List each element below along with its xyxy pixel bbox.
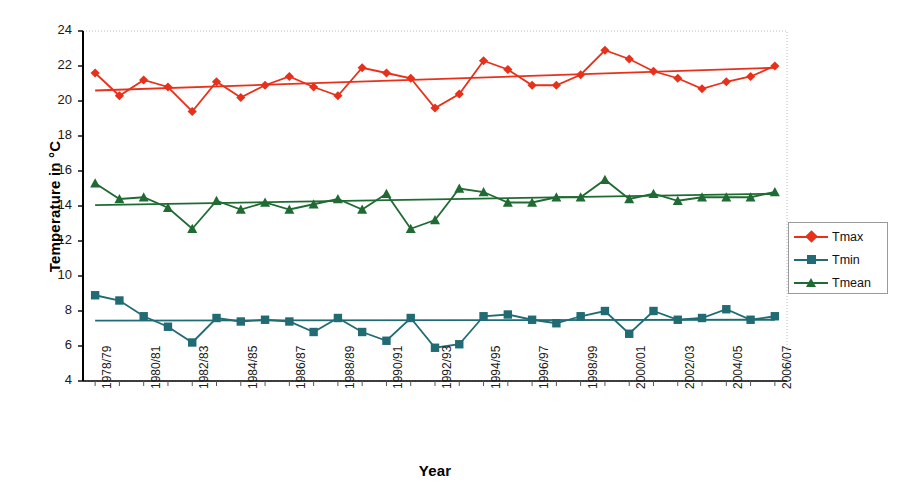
marker-tmax (139, 75, 148, 84)
x-tick-label: 2000/01 (634, 346, 648, 389)
x-tick-label: 1982/83 (197, 346, 211, 389)
marker-tmin (164, 323, 172, 331)
y-tick-label: 22 (38, 57, 72, 72)
marker-tmin (722, 305, 730, 313)
marker-tmin (528, 316, 536, 324)
y-tick-label: 24 (38, 22, 72, 37)
temperature-trend-chart: Temperature in °C Year Tmax Tmin Tmean (0, 0, 924, 493)
marker-tmax (260, 81, 269, 90)
marker-tmin (407, 314, 415, 322)
legend-item-tmin: Tmin (789, 248, 889, 272)
marker-tmin (698, 314, 706, 322)
marker-tmin (334, 314, 342, 322)
marker-tmin (139, 312, 147, 320)
marker-tmin (261, 316, 269, 324)
y-tick-label: 18 (38, 127, 72, 142)
marker-tmax (285, 72, 294, 81)
series-line-tmin (95, 295, 775, 348)
plot-area-border (83, 31, 787, 381)
marker-tmin (212, 314, 220, 322)
y-tick-label: 20 (38, 92, 72, 107)
marker-tmax (746, 72, 755, 81)
marker-tmin (382, 337, 390, 345)
marker-tmax (649, 67, 658, 76)
x-tick-label: 1978/79 (100, 346, 114, 389)
y-tick-label: 12 (38, 232, 72, 247)
trendline-tmin (95, 320, 775, 321)
marker-tmax (722, 77, 731, 86)
marker-tmin (455, 340, 463, 348)
marker-tmin (188, 338, 196, 346)
x-tick-label: 1990/91 (391, 346, 405, 389)
legend-item-tmax: Tmax (789, 225, 889, 249)
plot-canvas (0, 0, 924, 493)
x-tick-label: 1980/81 (149, 346, 163, 389)
marker-tmean (648, 189, 658, 198)
marker-tmean (333, 194, 343, 203)
legend-item-tmean: Tmean (789, 271, 889, 295)
x-tick-label: 1996/97 (537, 346, 551, 389)
x-tick-label: 1986/87 (294, 346, 308, 389)
y-tick-label: 6 (38, 337, 72, 352)
marker-tmean (770, 187, 780, 196)
chart-legend: Tmax Tmin Tmean (788, 222, 888, 294)
marker-tmin (552, 319, 560, 327)
marker-tmax (382, 68, 391, 77)
x-tick-label: 1984/85 (246, 346, 260, 389)
marker-tmin (309, 328, 317, 336)
marker-tmin (625, 330, 633, 338)
marker-tmean (357, 205, 367, 214)
marker-tmean (600, 175, 610, 184)
legend-swatch-tmean (794, 276, 828, 290)
marker-tmean (212, 196, 222, 205)
marker-tmax (673, 74, 682, 83)
x-tick-label: 2006/07 (780, 346, 794, 389)
x-tick-label: 1998/99 (586, 346, 600, 389)
trendline-tmax (95, 68, 775, 91)
marker-tmin (771, 312, 779, 320)
marker-tmean (381, 189, 391, 198)
marker-tmin (504, 310, 512, 318)
x-tick-label: 2002/03 (683, 346, 697, 389)
x-tick-label: 1994/95 (489, 346, 503, 389)
marker-tmin (91, 291, 99, 299)
x-tick-label: 1988/89 (343, 346, 357, 389)
marker-tmax (552, 81, 561, 90)
x-tick-label: 1992/93 (440, 346, 454, 389)
marker-tmax (625, 54, 634, 63)
marker-tmax (528, 81, 537, 90)
x-axis-title: Year (83, 462, 787, 479)
marker-tmin (674, 316, 682, 324)
legend-swatch-tmax (794, 230, 828, 244)
marker-tmin (649, 307, 657, 315)
marker-tmin (115, 296, 123, 304)
marker-tmin (479, 312, 487, 320)
y-tick-label: 8 (38, 302, 72, 317)
marker-tmin (746, 316, 754, 324)
marker-tmin (576, 312, 584, 320)
marker-tmax (236, 93, 245, 102)
legend-label-tmean: Tmean (832, 276, 871, 290)
legend-swatch-tmin (794, 253, 828, 267)
marker-tmin (285, 317, 293, 325)
marker-tmin (237, 317, 245, 325)
marker-tmin (358, 328, 366, 336)
marker-tmin (601, 307, 609, 315)
marker-tmax (503, 65, 512, 74)
series-line-tmax (95, 50, 775, 111)
y-tick-label: 10 (38, 267, 72, 282)
y-tick-label: 16 (38, 162, 72, 177)
marker-tmin (431, 344, 439, 352)
legend-label-tmax: Tmax (832, 230, 863, 244)
legend-label-tmin: Tmin (832, 253, 860, 267)
y-tick-label: 14 (38, 197, 72, 212)
y-tick-label: 4 (38, 372, 72, 387)
x-tick-label: 2004/05 (731, 346, 745, 389)
marker-tmax (770, 61, 779, 70)
marker-tmean (90, 178, 100, 187)
marker-tmax (697, 84, 706, 93)
